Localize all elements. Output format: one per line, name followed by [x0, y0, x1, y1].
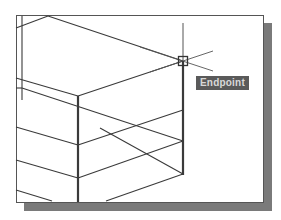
edge-line — [16, 16, 48, 28]
edge-line — [16, 160, 78, 178]
edge-line — [78, 141, 183, 178]
osnap-tooltip: Endpoint — [196, 76, 249, 90]
edge-line — [16, 78, 78, 96]
crosshair-line — [150, 51, 213, 72]
edge-line — [22, 88, 183, 141]
edge-line — [100, 128, 183, 174]
edge-line — [16, 127, 78, 145]
edge-line — [106, 174, 183, 201]
edge-line — [16, 190, 52, 201]
crosshair-line — [140, 47, 213, 71]
edge-line — [78, 110, 183, 145]
wireframe-drawing[interactable] — [0, 0, 281, 220]
